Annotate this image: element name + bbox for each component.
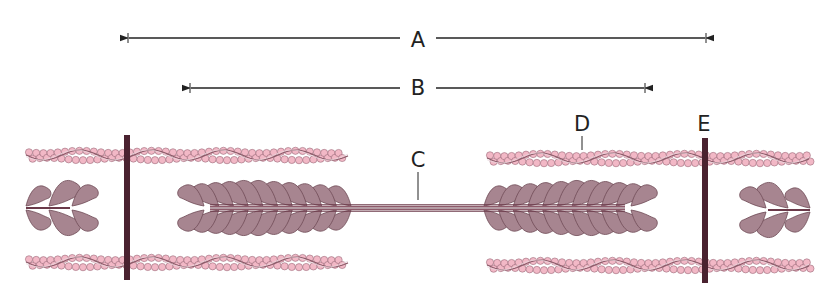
label-a: A — [407, 30, 429, 51]
myosin-filament — [740, 182, 810, 237]
label-b: B — [407, 78, 429, 99]
z-line-1 — [124, 135, 130, 280]
actin-filament — [25, 254, 348, 271]
actin-filament — [486, 257, 814, 274]
label-e-z-line: E — [693, 114, 714, 135]
sarcomere-diagram: A B C D E — [0, 0, 835, 298]
z-line-2 — [702, 138, 708, 283]
actin-filament — [25, 147, 348, 164]
myosin-filament — [26, 180, 98, 235]
label-c-m-line: C — [407, 150, 430, 171]
label-d-actin: D — [570, 114, 594, 135]
actin-filament — [486, 150, 814, 167]
